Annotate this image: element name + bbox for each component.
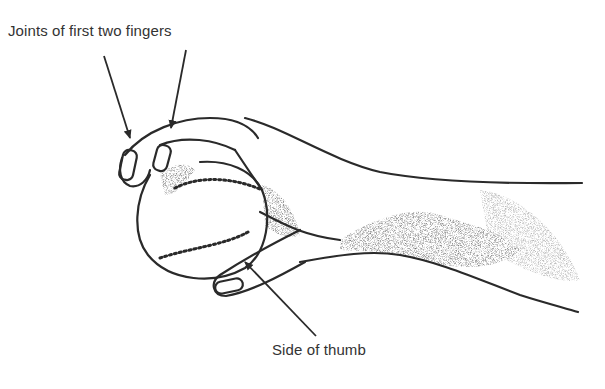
leader-arrows [104,50,316,336]
hand-baseball-illustration [0,0,605,389]
arrow-thumb [245,262,316,336]
arrow-joint-2 [171,50,186,128]
arrow-joint-1 [104,56,130,138]
